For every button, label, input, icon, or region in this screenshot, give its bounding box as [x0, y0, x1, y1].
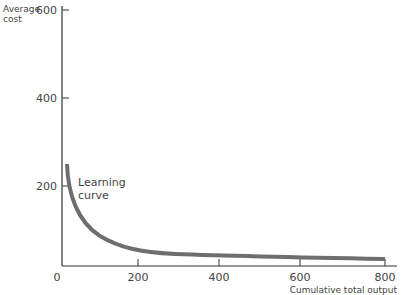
x-tick-label-400: 400 — [209, 271, 230, 284]
x-axis-title: Cumulative total output — [290, 285, 398, 295]
curve-annotation-line1: Learning — [78, 176, 126, 189]
x-tick-label-0: 0 — [54, 271, 61, 284]
learning-curve-chart: 600 400 200 0 200 400 600 800 Average co… — [0, 0, 401, 295]
y-tick-label-200: 200 — [36, 180, 57, 193]
y-axis-title-line1: Average — [3, 4, 40, 14]
y-tick-label-400: 400 — [36, 92, 57, 105]
y-axis-title-line2: cost — [3, 14, 22, 24]
x-tick-label-200: 200 — [128, 271, 149, 284]
curve-annotation-line2: curve — [78, 189, 109, 202]
x-tick-label-800: 800 — [375, 271, 396, 284]
x-tick-label-600: 600 — [290, 271, 311, 284]
